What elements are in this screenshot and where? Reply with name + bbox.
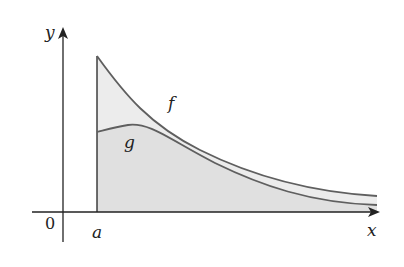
y-axis-label: y: [44, 22, 55, 42]
a-label: a: [92, 222, 102, 242]
x-axis-label: x: [367, 220, 377, 240]
area-between-curves-diagram: y x 0 a f g: [0, 0, 404, 267]
curve-g-label: g: [124, 132, 135, 152]
origin-label: 0: [45, 214, 55, 233]
curve-f-label: f: [166, 93, 177, 113]
